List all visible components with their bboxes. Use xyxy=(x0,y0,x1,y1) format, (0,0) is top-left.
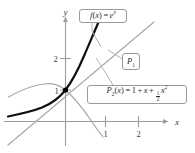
p2-eq: = xyxy=(124,85,132,95)
callout-p2-label: P2(x)=1+x+12x2 xyxy=(87,85,187,104)
callout-p1-label: P1 xyxy=(122,53,140,70)
x-tick-label-1: 1 xyxy=(103,129,107,139)
p2-frac-denominator: 2 xyxy=(156,96,161,102)
curve-exponential xyxy=(8,22,99,117)
fx-eq: = xyxy=(102,10,110,20)
tangent-point-marker xyxy=(63,87,68,92)
p2-var: x xyxy=(117,85,121,95)
leader-line-group xyxy=(92,23,124,85)
p2-plus-b: + xyxy=(148,85,156,95)
y-tick-label-2: 2 xyxy=(53,54,57,64)
taylor-polynomial-figure: x y 1 2 2 1 f(x)=ex P1 P2(x)=1+x+12x2 xyxy=(0,0,195,153)
p2-sub: 2 xyxy=(112,91,115,97)
y-axis-label: y xyxy=(63,7,68,17)
p2-term-x2-exponent: 2 xyxy=(165,84,168,90)
curve-p1-tangent-line xyxy=(8,22,154,145)
x-tick-label-2: 2 xyxy=(136,129,140,139)
axis-group xyxy=(4,17,168,146)
p2-term-x: x xyxy=(144,85,148,95)
fx-fn: f xyxy=(90,10,92,20)
callout-p1-text: P1 xyxy=(127,57,135,66)
plot-area: x y 1 2 2 1 xyxy=(0,0,195,153)
p2-plus-a: + xyxy=(136,85,144,95)
fx-var: x xyxy=(95,10,99,20)
fx-exponent: x xyxy=(114,9,116,15)
p2-fraction-one-half: 12 xyxy=(156,91,161,103)
leader-line-p2 xyxy=(96,58,113,85)
x-axis-label: x xyxy=(174,117,179,127)
callout-fx-text: f(x)=ex xyxy=(90,11,116,20)
p1-sub: 1 xyxy=(132,62,135,68)
callout-function-label: f(x)=ex xyxy=(79,9,127,23)
y-tick-label-1: 1 xyxy=(54,86,58,96)
callout-p2-text: P2(x)=1+x+12x2 xyxy=(107,86,168,102)
